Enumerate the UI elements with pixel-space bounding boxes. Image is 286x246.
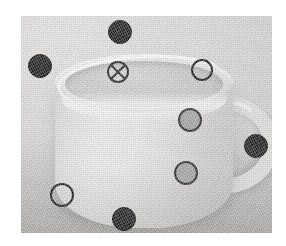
marker-top-rim-black[interactable] <box>108 20 132 44</box>
marker-right-rim-open[interactable] <box>191 59 213 81</box>
marker-interior-crossed[interactable] <box>107 61 129 83</box>
marker-handle-right-black[interactable] <box>244 134 268 158</box>
photograph-plate <box>21 16 272 233</box>
marker-upper-body-gray[interactable] <box>178 108 202 132</box>
marker-lower-body-gray[interactable] <box>174 161 198 185</box>
screenshot-root <box>0 0 286 246</box>
marker-left-rim-black[interactable] <box>28 54 52 78</box>
cup-body-shading <box>55 166 233 228</box>
marker-lower-left-open[interactable] <box>50 183 74 207</box>
marker-bottom-body-black[interactable] <box>112 207 136 231</box>
